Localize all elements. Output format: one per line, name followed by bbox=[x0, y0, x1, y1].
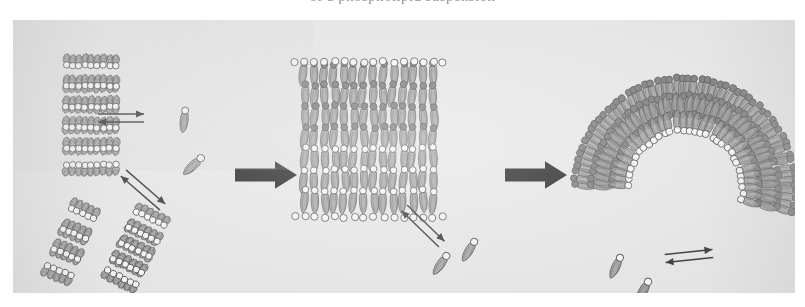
lipid-head-group bbox=[389, 146, 396, 153]
lipid-head-group bbox=[429, 82, 436, 89]
lipid-head-group bbox=[321, 188, 328, 195]
lipid-head-group bbox=[63, 162, 70, 169]
lipid-head-group bbox=[331, 187, 338, 194]
lipid-molecule bbox=[181, 152, 206, 177]
lipid-head-group bbox=[409, 166, 416, 173]
arrow-head bbox=[665, 258, 674, 266]
lipid-head-group bbox=[87, 145, 94, 152]
free-lipid-2 bbox=[181, 152, 206, 177]
lipid-molecule bbox=[339, 188, 347, 215]
lipid-head-group bbox=[332, 81, 339, 88]
lipid-head-group bbox=[181, 107, 188, 114]
lipid-molecule bbox=[409, 187, 418, 214]
lipid-head-group bbox=[62, 103, 69, 110]
lipid-molecule bbox=[329, 187, 337, 214]
lipid-head-group bbox=[311, 187, 318, 194]
lipid-head-group bbox=[370, 144, 377, 151]
figure-stage: of a phospholipid suspension bbox=[0, 0, 805, 307]
lipid-head-group bbox=[690, 75, 697, 82]
lipid-head-group bbox=[401, 166, 408, 173]
lipid-head-group bbox=[674, 126, 681, 133]
lipid-head-group bbox=[113, 83, 120, 90]
lipid-molecule bbox=[634, 276, 653, 293]
lipid-molecule bbox=[68, 74, 76, 89]
free-lipid-6 bbox=[634, 276, 653, 293]
lipid-head-group bbox=[93, 125, 100, 132]
lipid-head-group bbox=[322, 102, 329, 109]
lipid-head-group bbox=[69, 83, 76, 90]
lipid-head-group bbox=[322, 167, 329, 174]
lipid-head-group bbox=[409, 124, 416, 131]
transition-arrow-shape bbox=[235, 161, 297, 188]
lipid-head-group bbox=[292, 213, 299, 220]
lipid-head-group bbox=[113, 145, 120, 152]
lipid-head-group bbox=[410, 187, 417, 194]
lipid-head-group bbox=[94, 162, 101, 169]
lipid-tail-body bbox=[607, 259, 622, 280]
lipid-head-group bbox=[400, 81, 407, 88]
lipid-head-group bbox=[320, 58, 327, 65]
lipid-molecule bbox=[112, 116, 120, 131]
lipid-head-group bbox=[75, 103, 81, 109]
lipid-head-group bbox=[100, 104, 107, 111]
lipid-molecule bbox=[348, 187, 358, 214]
lipid-head-group bbox=[389, 80, 396, 87]
lipid-molecule bbox=[428, 188, 437, 215]
free-lipid-1 bbox=[179, 107, 189, 133]
lipid-molecule bbox=[431, 251, 451, 277]
lipid-head-group bbox=[94, 145, 101, 152]
lipid-head-group bbox=[352, 213, 359, 220]
lipid-head-group bbox=[340, 103, 347, 110]
lipid-head-group bbox=[430, 188, 437, 195]
lipid-head-group bbox=[379, 82, 386, 89]
lipid-head-group bbox=[372, 125, 379, 132]
lipid-head-group bbox=[106, 162, 113, 169]
lipid-head-group bbox=[81, 124, 88, 131]
diagram-artwork bbox=[13, 20, 795, 293]
lipid-head-group bbox=[666, 76, 673, 83]
lipid-head-group bbox=[332, 58, 339, 65]
lipid-head-group bbox=[399, 187, 406, 194]
lipid-head-group bbox=[100, 82, 107, 89]
lipid-head-group bbox=[390, 188, 397, 195]
lipid-head-group bbox=[419, 186, 426, 193]
lipid-head-group bbox=[390, 123, 397, 130]
lipid-molecule bbox=[418, 186, 429, 213]
lipid-head-group bbox=[390, 167, 397, 174]
lipid-head-group bbox=[381, 166, 388, 173]
lipid-head-group bbox=[331, 213, 338, 220]
lipid-head-group bbox=[409, 104, 416, 111]
lipid-head-group bbox=[430, 124, 437, 131]
lipid-molecule bbox=[112, 75, 120, 90]
lipid-molecule bbox=[370, 187, 380, 214]
multilamellar-stack bbox=[62, 53, 121, 177]
lipid-head-group bbox=[350, 187, 357, 194]
lipid-head-group bbox=[87, 82, 94, 89]
lipid-head-group bbox=[75, 63, 81, 69]
stage-1 bbox=[39, 53, 173, 293]
lipid-head-group bbox=[106, 124, 113, 131]
lipid-head-group bbox=[351, 167, 358, 174]
lipid-head-group bbox=[69, 104, 76, 111]
lipid-molecule bbox=[100, 54, 108, 69]
lipid-head-group bbox=[379, 58, 386, 65]
lipid-head-group bbox=[69, 145, 76, 152]
lipid-head-group bbox=[340, 188, 347, 195]
lipid-head-group bbox=[312, 102, 319, 109]
lipid-head-group bbox=[410, 82, 417, 89]
vesicle-outer-leaflet bbox=[570, 74, 795, 217]
lipid-head-group bbox=[322, 214, 329, 221]
lipid-head-group bbox=[87, 124, 94, 131]
lipid-head-group bbox=[301, 103, 308, 110]
lipid-head-group bbox=[311, 145, 318, 152]
free-lipid-4 bbox=[460, 237, 479, 264]
lipid-molecule bbox=[460, 237, 479, 264]
lipid-head-group bbox=[370, 103, 377, 110]
free-lipid-3 bbox=[431, 251, 451, 277]
lipid-molecule bbox=[69, 116, 77, 131]
lipid-head-group bbox=[302, 213, 309, 220]
lipid-molecule bbox=[113, 137, 121, 152]
lipid-tail-body bbox=[348, 193, 357, 214]
lipid-head-group bbox=[380, 103, 387, 110]
lipid-head-group bbox=[301, 58, 308, 65]
